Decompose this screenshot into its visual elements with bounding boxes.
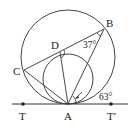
point-T — [21, 102, 25, 106]
angle-label-37: 37° — [83, 40, 97, 50]
large-circle — [21, 10, 115, 104]
point-T-prime — [109, 102, 113, 106]
segment-AD — [60, 52, 68, 104]
label-T: T — [19, 110, 26, 122]
angle-label-63: 63° — [99, 92, 113, 102]
label-B: B — [106, 17, 113, 29]
geometry-diagram: B C D A T T′ 37° 63° — [0, 0, 133, 130]
label-T-prime: T′ — [107, 110, 116, 122]
small-circle — [43, 54, 93, 104]
label-A: A — [64, 110, 72, 122]
angle-arc-B — [97, 33, 101, 36]
label-C: C — [13, 65, 20, 77]
label-D: D — [51, 39, 59, 51]
